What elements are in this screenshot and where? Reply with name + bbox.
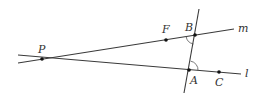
label-a: A	[189, 74, 198, 87]
point-c	[217, 70, 221, 74]
point-f	[164, 38, 168, 42]
label-p: P	[37, 43, 46, 56]
line-l	[18, 55, 241, 74]
label-line-l: l	[245, 67, 249, 80]
label-f: F	[161, 23, 170, 36]
point-b	[193, 33, 197, 37]
label-c: C	[215, 76, 224, 89]
angle-mark-b	[186, 36, 193, 44]
geometry-diagram: P F B A C m l	[0, 0, 261, 99]
point-a	[187, 68, 191, 72]
point-p	[40, 57, 44, 61]
label-line-m: m	[238, 22, 248, 35]
label-b: B	[184, 21, 193, 34]
